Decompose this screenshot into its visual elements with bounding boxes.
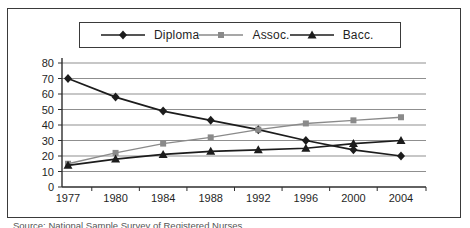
x-tick-label: 1996 <box>294 192 318 204</box>
x-tick-label: 2000 <box>341 192 365 204</box>
square-marker-icon <box>208 134 214 140</box>
y-tick-label: 0 <box>48 181 54 193</box>
y-tick-label: 70 <box>42 73 54 85</box>
diamond-marker-icon <box>207 116 215 125</box>
x-tick-label: 2004 <box>389 192 413 204</box>
y-tick-label: 20 <box>42 150 54 162</box>
square-marker-icon <box>199 29 243 41</box>
legend-entry-bacc: Bacc. <box>290 28 374 42</box>
legend-label: Bacc. <box>343 28 374 42</box>
square-marker-icon <box>255 127 261 133</box>
y-tick-label: 60 <box>42 88 54 100</box>
y-tick-label: 50 <box>42 104 54 116</box>
legend: DiplomaAssoc.Bacc. <box>79 22 401 48</box>
x-tick-label: 1980 <box>103 192 127 204</box>
square-marker-icon <box>398 114 404 120</box>
y-tick-label: 40 <box>42 119 54 131</box>
x-tick-label: 1988 <box>198 192 222 204</box>
source-caption: Source: National Sample Survey of Regist… <box>13 220 245 228</box>
legend-label: Assoc. <box>252 28 289 42</box>
y-tick-label: 80 <box>42 57 54 69</box>
diamond-marker-icon <box>101 29 145 41</box>
x-tick-label: 1992 <box>246 192 270 204</box>
x-tick-label: 1977 <box>56 192 80 204</box>
legend-entry-assoc: Assoc. <box>199 28 289 42</box>
square-marker-icon <box>350 117 356 123</box>
diamond-marker-icon <box>64 74 72 83</box>
legend-entry-diploma: Diploma <box>101 28 199 42</box>
chart-page: 0102030405060708019771980198419881992199… <box>0 0 470 228</box>
diamond-marker-icon <box>397 152 405 161</box>
x-tick-label: 1984 <box>151 192 175 204</box>
diamond-marker-icon <box>302 136 310 145</box>
triangle-marker-icon <box>290 29 334 41</box>
diamond-marker-icon <box>159 107 167 116</box>
y-tick-label: 10 <box>42 166 54 178</box>
y-tick-label: 30 <box>42 135 54 147</box>
square-marker-icon <box>160 141 166 147</box>
legend-label: Diploma <box>154 28 199 42</box>
square-marker-icon <box>303 120 309 126</box>
